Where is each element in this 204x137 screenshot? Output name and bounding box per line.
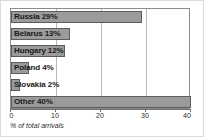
chart-frame: Russia 29%Belarus 13%Hungary 12%Poland 4… — [0, 0, 204, 137]
bar-row: Hungary 12% — [11, 45, 189, 57]
x-tick-label-40: 40 — [183, 112, 191, 119]
bar-row: Slovakia 2% — [11, 79, 189, 91]
bar-row: Poland 4% — [11, 62, 189, 74]
bar-label-belarus: Belarus 13% — [14, 28, 60, 40]
bar-series: Russia 29%Belarus 13%Hungary 12%Poland 4… — [11, 9, 189, 108]
bar-row: Russia 29% — [11, 11, 189, 23]
x-tick-label-30: 30 — [141, 112, 149, 119]
bar-row: Belarus 13% — [11, 28, 189, 40]
bar-label-slovakia: Slovakia 2% — [14, 79, 59, 91]
bar-row: Other 40% — [11, 96, 189, 108]
x-tick-label-10: 10 — [51, 112, 59, 119]
plot-area: Russia 29%Belarus 13%Hungary 12%Poland 4… — [10, 8, 190, 109]
x-tick-label-0: 0 — [10, 112, 14, 119]
x-axis-title: % of total arrivals — [10, 122, 64, 129]
bar-label-other: Other 40% — [14, 96, 53, 108]
bar-label-russia: Russia 29% — [14, 11, 57, 23]
x-tick-label-20: 20 — [96, 112, 104, 119]
bar-label-poland: Poland 4% — [14, 62, 54, 74]
bar-label-hungary: Hungary 12% — [14, 45, 64, 57]
